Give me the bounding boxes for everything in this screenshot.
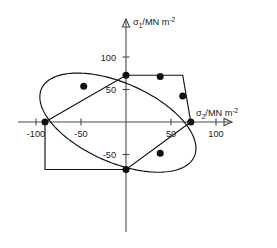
x-axis-label: σ2/MN m-2	[196, 107, 239, 120]
ytick-label--50: -50	[103, 150, 116, 160]
data-point-marker	[42, 119, 49, 126]
xtick-label--50: -50	[74, 129, 87, 139]
yield-locus-chart: -100 -50 50 100 100 50 -50 σ1/MN m-2 σ2/…	[0, 0, 277, 248]
data-point-marker	[187, 119, 194, 126]
y-axis-label: σ1/MN m-2	[133, 16, 176, 29]
xtick-label--100: -100	[27, 129, 45, 139]
x-axis-label-unit: /MN m	[205, 108, 232, 118]
series-group	[40, 73, 196, 172]
y-axis-label-exponent: -2	[169, 16, 175, 23]
x-axis-label-exponent: -2	[232, 107, 238, 114]
data-point-marker	[123, 166, 130, 173]
data-point-marker	[80, 83, 87, 90]
y-axis-label-unit: /MN m	[142, 17, 169, 27]
data-point-marker	[157, 73, 164, 80]
data-point-marker	[157, 150, 164, 157]
chart-canvas: -100 -50 50 100 100 50 -50 σ1/MN m-2 σ2/…	[0, 0, 277, 248]
xtick-label-100: 100	[208, 129, 223, 139]
data-point-marker	[179, 93, 186, 100]
tick-labels-group: -100 -50 50 100 100 50 -50	[27, 53, 224, 161]
axis-titles-group: σ1/MN m-2 σ2/MN m-2	[133, 16, 239, 120]
von-mises-ellipse-curve	[40, 73, 196, 172]
axes-group	[18, 19, 232, 232]
data-point-marker	[123, 72, 130, 79]
ytick-label-100: 100	[101, 53, 116, 63]
